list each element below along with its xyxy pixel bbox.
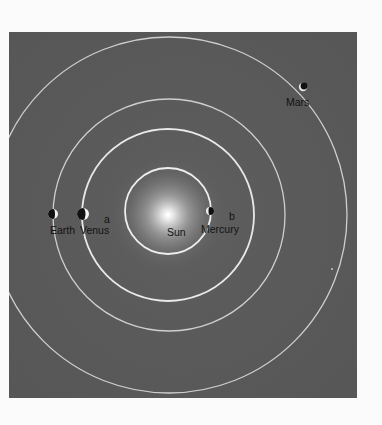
label-earth: Earth — [50, 225, 75, 236]
planet-venus-icon — [77, 208, 89, 220]
diagram-panel: Mars Earth Venus Sun Mercury a b — [9, 32, 357, 398]
label-venus: Venus — [80, 225, 109, 236]
label-sun: Sun — [167, 227, 186, 238]
marker-b: b — [229, 211, 235, 222]
marker-a: a — [104, 214, 110, 225]
planet-earth-icon — [48, 209, 58, 219]
planet-mercury-icon — [206, 207, 214, 215]
label-mars: Mars — [286, 97, 309, 108]
label-mercury: Mercury — [201, 224, 239, 235]
dust-speck — [331, 268, 333, 270]
orbit-diagram — [9, 32, 357, 398]
sun-icon — [166, 213, 170, 217]
